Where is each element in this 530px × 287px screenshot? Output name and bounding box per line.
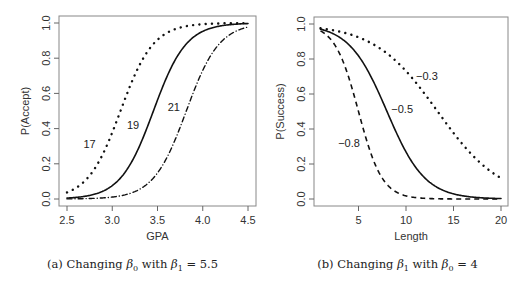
y-tick-label: 0.2 — [295, 156, 307, 171]
y-tick-label: 0.0 — [295, 191, 307, 206]
x-tick-label: 3.0 — [105, 214, 120, 226]
x-tick-label: 3.5 — [150, 214, 165, 226]
y-tick-label: 0.6 — [295, 86, 307, 101]
curve-label: −0.3 — [416, 70, 438, 82]
caption-a-prefix: (a) Changing — [47, 257, 126, 271]
x-tick-label: 10 — [400, 214, 412, 226]
x-tick-label: 2.5 — [59, 214, 74, 226]
caption-b-prefix: (b) Changing — [317, 257, 397, 271]
y-tick-label: 1.0 — [40, 15, 52, 30]
curve-label: 21 — [168, 101, 180, 113]
y-tick-label: 0.8 — [295, 51, 307, 66]
y-tick-label: 0.6 — [40, 86, 52, 101]
x-tick-label: 5 — [355, 214, 361, 226]
x-tick-label: 20 — [495, 214, 507, 226]
y-tick-label: 1.0 — [295, 16, 307, 31]
y-tick-label: 0.2 — [40, 156, 52, 171]
caption-a-fixed: β — [171, 257, 178, 271]
curve-label: 19 — [127, 119, 139, 131]
curve-label: −0.8 — [338, 137, 360, 149]
y-tick-label: 0.0 — [40, 191, 52, 206]
caption-b-param: β — [397, 257, 404, 271]
x-tick-label: 4.5 — [240, 214, 255, 226]
caption-b-middle: with — [409, 257, 442, 271]
curve-label: −0.5 — [391, 103, 413, 115]
y-tick-label: 0.4 — [40, 121, 52, 136]
caption-b-suffix: = 4 — [454, 257, 478, 271]
chart-panel-b: 0.00.20.40.60.81.05101520LengthP(Success… — [265, 0, 530, 287]
x-tick-label: 4.0 — [195, 214, 210, 226]
caption-a-middle: with — [138, 257, 171, 271]
y-axis-label: P(Accept) — [19, 87, 31, 135]
x-axis-label: Length — [394, 230, 428, 242]
plot-gpa-accept: 0.00.20.40.60.81.02.53.03.54.04.5GPAP(Ac… — [0, 0, 265, 250]
caption-b: (b) Changing β1 with β0 = 4 — [265, 257, 530, 273]
caption-a: (a) Changing β0 with β1 = 5.5 — [0, 257, 265, 273]
caption-a-suffix: = 5.5 — [183, 257, 218, 271]
curve-label: 17 — [84, 138, 96, 150]
y-tick-label: 0.4 — [295, 121, 307, 136]
curve-dashdot — [67, 27, 248, 199]
plot-length-success: 0.00.20.40.60.81.05101520LengthP(Success… — [265, 0, 530, 250]
curve-solid — [67, 24, 248, 199]
x-axis-label: GPA — [146, 230, 169, 242]
chart-panel-a: 0.00.20.40.60.81.02.53.03.54.04.5GPAP(Ac… — [0, 0, 265, 287]
y-tick-label: 0.8 — [40, 51, 52, 66]
x-tick-label: 15 — [447, 214, 459, 226]
curve-dotted — [67, 23, 248, 192]
y-axis-label: P(Success) — [274, 83, 286, 139]
